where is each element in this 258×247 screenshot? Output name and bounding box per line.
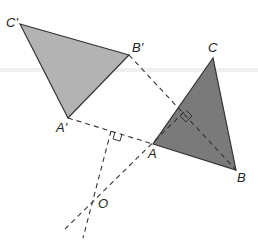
label-b-prime: B': [132, 40, 144, 55]
label-a: A: [147, 146, 157, 161]
label-b: B: [237, 170, 246, 185]
right-angle-marker-aa: [113, 132, 122, 141]
rotation-diagram: C' B' A' C A B O: [0, 0, 258, 247]
image-triangle: [20, 24, 129, 118]
bisector-aa: [83, 131, 111, 238]
label-c: C: [208, 40, 218, 55]
label-a-prime: A': [55, 120, 68, 135]
label-o: O: [98, 196, 108, 211]
label-c-prime: C': [6, 15, 18, 30]
original-triangle: [153, 58, 236, 170]
